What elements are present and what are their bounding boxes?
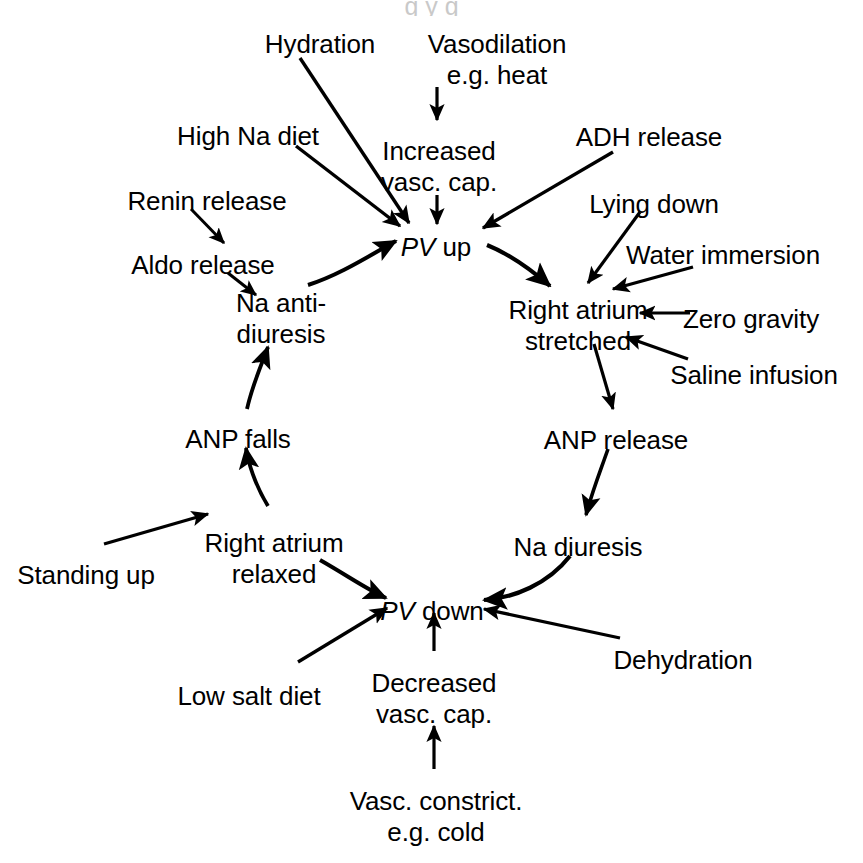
- node-standing-up[interactable]: Standing up: [17, 560, 155, 591]
- node-hydration[interactable]: Hydration: [265, 29, 375, 60]
- node-right-atrium-stretched[interactable]: Right atrium stretched: [509, 295, 648, 357]
- edge-pv-up-to-right-atrium-stretched: [487, 245, 550, 286]
- pv-down-italic-prefix: PV: [380, 596, 414, 626]
- node-dehydration[interactable]: Dehydration: [613, 645, 752, 676]
- node-zero-gravity[interactable]: Zero gravity: [683, 304, 819, 335]
- node-decreased-vasc-cap[interactable]: Decreased vasc. cap.: [372, 668, 497, 730]
- node-aldo-release[interactable]: Aldo release: [131, 250, 274, 281]
- node-increased-vasc-cap[interactable]: Increased vasc. cap.: [381, 136, 497, 198]
- node-water-immersion[interactable]: Water immersion: [626, 240, 820, 271]
- edge-anp-release-to-na-diuresis: [586, 449, 608, 515]
- node-vasodilation[interactable]: Vasodilation e.g. heat: [428, 29, 567, 91]
- edge-anp-falls-to-na-anti-diuresis: [247, 347, 268, 409]
- node-low-salt-diet[interactable]: Low salt diet: [177, 681, 320, 712]
- edge-right-atrium-relaxed-to-anp-falls: [246, 448, 268, 506]
- cropped-caption-remnant: g y g: [0, 0, 863, 16]
- node-anp-release[interactable]: ANP release: [544, 425, 688, 456]
- edge-standing-up-to-right-atrium-relaxed: [104, 514, 208, 544]
- edge-dehydration-to-pv-down: [484, 609, 620, 638]
- edge-na-anti-diuresis-to-pv-up: [308, 241, 396, 285]
- pv-up-italic-prefix: PV: [401, 232, 435, 262]
- node-na-anti-diuresis[interactable]: Na anti- diuresis: [236, 288, 326, 350]
- node-na-diuresis[interactable]: Na diuresis: [514, 532, 643, 563]
- node-anp-falls[interactable]: ANP falls: [185, 424, 291, 455]
- edge-low-salt-diet-to-pv-down: [298, 608, 387, 662]
- arrow-layer: [0, 0, 863, 863]
- node-saline-infusion[interactable]: Saline infusion: [670, 360, 838, 391]
- node-vasc-constrict[interactable]: Vasc. constrict. e.g. cold: [350, 786, 523, 848]
- diagram-canvas: g y g: [0, 0, 863, 863]
- pv-up-suffix: up: [435, 232, 471, 262]
- node-renin-release[interactable]: Renin release: [127, 186, 286, 217]
- node-pv-down[interactable]: PV down: [380, 596, 483, 627]
- pv-down-suffix: down: [415, 596, 484, 626]
- node-lying-down[interactable]: Lying down: [589, 189, 719, 220]
- node-pv-up[interactable]: PV up: [401, 232, 471, 263]
- node-high-na-diet[interactable]: High Na diet: [177, 121, 319, 152]
- node-adh-release[interactable]: ADH release: [576, 122, 722, 153]
- node-right-atrium-relaxed[interactable]: Right atrium relaxed: [205, 528, 344, 590]
